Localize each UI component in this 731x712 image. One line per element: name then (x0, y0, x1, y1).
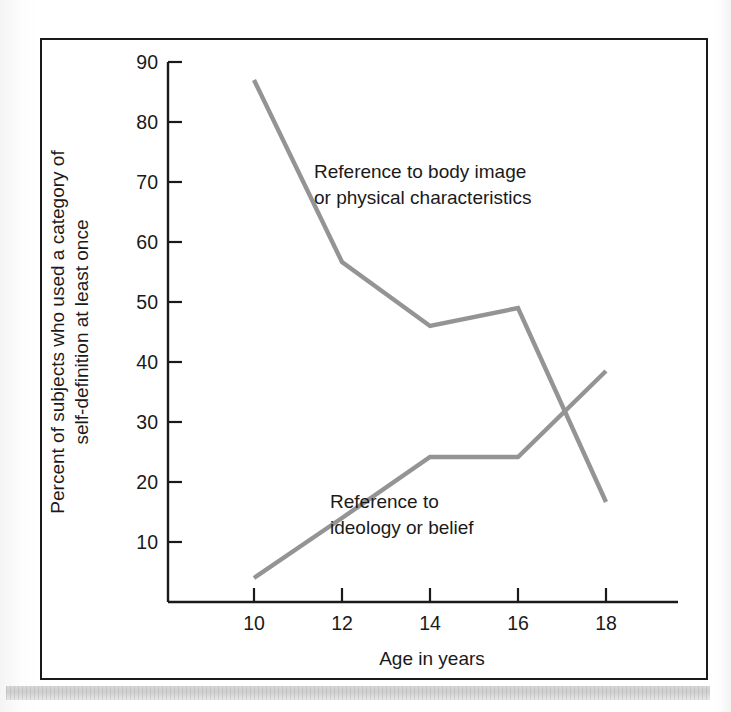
x-tick-label-18: 18 (595, 612, 617, 634)
x-tick-label-10: 10 (243, 612, 265, 634)
annotation-ideology-line1: Reference to (330, 491, 439, 512)
annotation-body-image-line1: Reference to body image (314, 161, 526, 182)
series-body-image-line (254, 80, 606, 502)
figure-frame: 10 20 30 40 50 60 70 80 90 10 12 14 16 1… (40, 38, 708, 680)
scan-edge-right (713, 0, 731, 712)
x-tick-label-16: 16 (507, 612, 529, 634)
x-tick-label-12: 12 (331, 612, 353, 634)
y-axis-title-line2: self-definition at least once (71, 220, 92, 445)
scan-edge-left (0, 0, 40, 712)
figure-page: 10 20 30 40 50 60 70 80 90 10 12 14 16 1… (0, 0, 731, 712)
series-ideology-line (254, 371, 606, 578)
x-tick-label-14: 14 (419, 612, 441, 634)
y-axis-ticks (168, 62, 182, 542)
y-tick-label-90: 90 (136, 51, 158, 73)
x-axis-ticks (254, 588, 606, 602)
y-tick-label-40: 40 (136, 351, 158, 373)
y-tick-label-50: 50 (136, 291, 158, 313)
y-tick-label-80: 80 (136, 111, 158, 133)
y-tick-label-30: 30 (136, 411, 158, 433)
annotation-ideology-line2: ideology or belief (330, 517, 474, 538)
annotation-body-image-line2: or physical characteristics (314, 187, 532, 208)
x-axis-title: Age in years (379, 648, 485, 669)
line-chart: 10 20 30 40 50 60 70 80 90 10 12 14 16 1… (42, 40, 706, 678)
y-tick-label-70: 70 (136, 171, 158, 193)
y-tick-label-10: 10 (136, 531, 158, 553)
y-axis-title-line1: Percent of subjects who used a category … (47, 150, 68, 514)
y-tick-label-20: 20 (136, 471, 158, 493)
y-tick-label-60: 60 (136, 231, 158, 253)
scan-strip-bottom (6, 686, 710, 700)
